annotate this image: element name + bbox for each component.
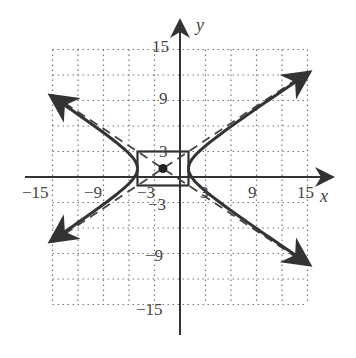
hyperbola-branch [53, 169, 138, 241]
y-tick-label: −3 [148, 196, 166, 213]
x-axis-label: x [320, 187, 328, 205]
x-tick-label: 3 [200, 184, 209, 201]
hyperbola-branch [189, 74, 308, 169]
hyperbola-branch [53, 97, 138, 169]
y-tick-label: 3 [159, 143, 168, 160]
x-tick-label: −9 [84, 184, 102, 201]
x-tick-label: 9 [248, 184, 257, 201]
y-tick-label: −9 [145, 247, 163, 264]
center-point [159, 164, 168, 173]
x-tick-label: 15 [297, 184, 314, 201]
y-axis-label: y [196, 16, 204, 34]
y-tick-label: 15 [152, 38, 169, 55]
y-tick-label: 9 [159, 90, 168, 107]
y-tick-label: −15 [136, 301, 163, 318]
hyperbola-graph [0, 0, 356, 358]
x-tick-label: −15 [22, 184, 49, 201]
